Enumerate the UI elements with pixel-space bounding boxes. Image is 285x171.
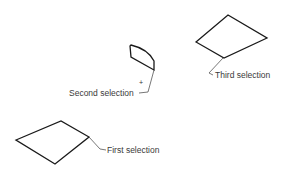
second-selection-shape [130, 45, 154, 70]
third-selection-label: Third selection [215, 70, 271, 80]
second-selection-label: Second selection [69, 88, 134, 98]
first-selection-shape [16, 121, 89, 164]
second-selection-group: + Second selection [69, 45, 154, 98]
plus-marker-icon: + [139, 79, 143, 86]
selection-diagram: Third selection + Second selection First… [0, 0, 285, 171]
first-selection-label: First selection [107, 145, 160, 155]
third-selection-shape [196, 15, 267, 58]
third-selection-group: Third selection [196, 15, 271, 80]
first-selection-group: First selection [16, 121, 160, 164]
first-selection-leader [89, 137, 106, 150]
